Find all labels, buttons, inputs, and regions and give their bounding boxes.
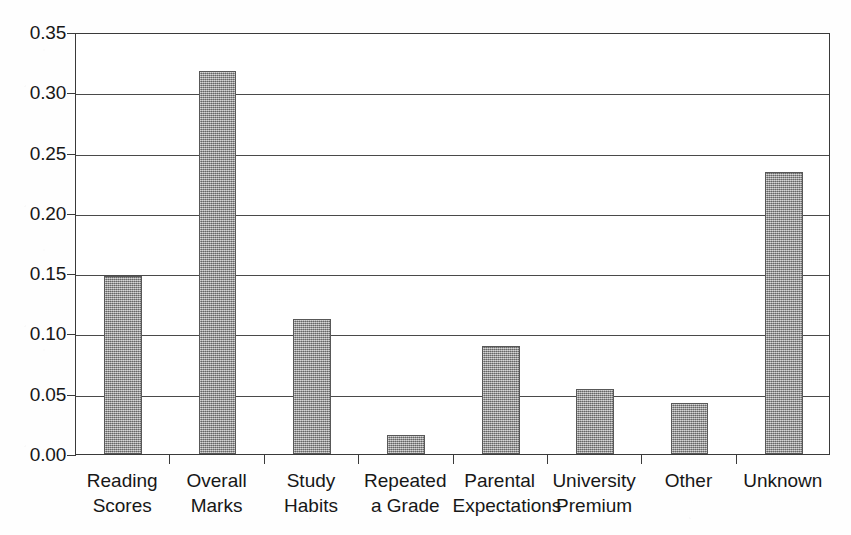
y-axis-tick-label: 0.00 xyxy=(4,445,66,464)
x-axis-tick-mark xyxy=(736,455,737,464)
x-axis: Reading ScoresOverall MarksStudy HabitsR… xyxy=(75,468,830,530)
bar xyxy=(104,276,142,454)
x-axis-tick-mark xyxy=(169,455,170,464)
x-axis-tick-mark xyxy=(358,455,359,464)
y-axis-tick-mark xyxy=(67,395,76,396)
gridline xyxy=(76,335,829,336)
x-axis-tick-mark xyxy=(641,455,642,464)
bar xyxy=(765,172,803,454)
plot-area xyxy=(75,33,830,455)
bar-chart-figure: 0.000.050.100.150.200.250.300.35 Reading… xyxy=(0,0,851,535)
x-axis-tick-mark xyxy=(264,455,265,464)
y-axis-tick-mark xyxy=(67,154,76,155)
bar xyxy=(482,346,520,455)
y-axis-tick-label: 0.35 xyxy=(4,23,66,42)
x-axis-category-label: Study Habits xyxy=(264,468,358,518)
gridline xyxy=(76,94,829,95)
gridline xyxy=(76,215,829,216)
bar xyxy=(671,403,709,454)
y-axis-tick-mark xyxy=(67,93,76,94)
y-axis-tick-label: 0.20 xyxy=(4,204,66,223)
y-axis-tick-mark xyxy=(67,274,76,275)
x-axis-category-label: Unknown xyxy=(736,468,830,493)
y-axis-tick-mark xyxy=(67,334,76,335)
bar xyxy=(293,319,331,454)
x-axis-category-label: Reading Scores xyxy=(75,468,169,518)
y-axis-tick-label: 0.10 xyxy=(4,324,66,343)
y-axis-tick-mark xyxy=(67,214,76,215)
bar xyxy=(387,435,425,454)
x-axis-tick-mark xyxy=(547,455,548,464)
y-axis-tick-mark xyxy=(67,455,76,456)
x-axis-category-label: Parental Expectations xyxy=(453,468,547,518)
x-axis-tick-mark xyxy=(453,455,454,464)
gridline xyxy=(76,396,829,397)
x-axis-category-label: Other xyxy=(641,468,735,493)
bar xyxy=(199,71,237,454)
gridline xyxy=(76,275,829,276)
x-axis-category-label: Overall Marks xyxy=(169,468,263,518)
x-axis-category-label: Repeated a Grade xyxy=(358,468,452,518)
y-axis-tick-label: 0.30 xyxy=(4,83,66,102)
y-axis-tick-mark xyxy=(67,33,76,34)
gridline xyxy=(76,155,829,156)
y-axis-tick-label: 0.05 xyxy=(4,385,66,404)
x-axis-category-label: University Premium xyxy=(547,468,641,518)
y-axis: 0.000.050.100.150.200.250.300.35 xyxy=(0,0,66,535)
bar xyxy=(576,389,614,454)
y-axis-tick-label: 0.25 xyxy=(4,144,66,163)
y-axis-tick-label: 0.15 xyxy=(4,264,66,283)
